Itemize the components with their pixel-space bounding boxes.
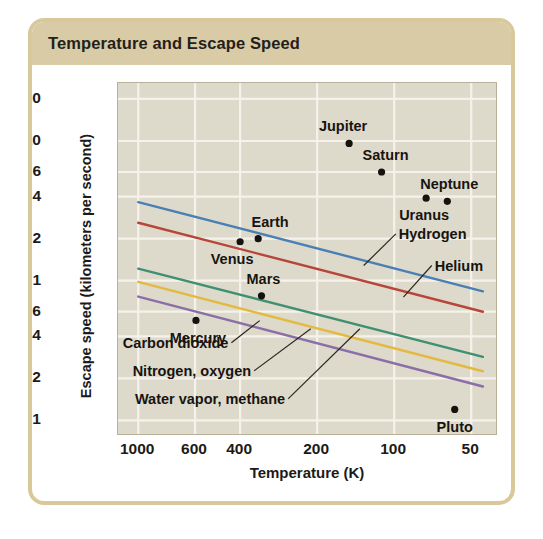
series-label-hydrogen: Hydrogen: [399, 226, 467, 242]
data-point-label-uranus: Uranus: [399, 207, 449, 223]
figure-card: Temperature and Escape Speed Escape spee…: [28, 18, 515, 505]
data-point-label-pluto: Pluto: [437, 419, 473, 435]
y-tick-label: 2: [28, 229, 41, 247]
y-tick-label: 10: [28, 131, 41, 149]
plot-area: JupiterSaturnNeptuneUranusEarthVenusMars…: [117, 82, 497, 435]
x-axis-title: Temperature (K): [117, 464, 497, 481]
series-label-water-vapor-methane: Water vapor, methane: [135, 391, 285, 407]
x-tick-label: 100: [358, 440, 428, 458]
y-tick-label: 0.6: [28, 302, 41, 320]
y-tick-label: 0.4: [28, 326, 41, 344]
x-tick-label: 50: [435, 440, 505, 458]
data-point-label-earth: Earth: [252, 214, 289, 230]
series-label-helium: Helium: [435, 258, 483, 274]
y-tick-label: 4: [28, 187, 41, 205]
title-band: Temperature and Escape Speed: [31, 21, 515, 65]
data-point-label-venus: Venus: [211, 251, 254, 267]
plot-region: Escape speed (kilometers per second) Tem…: [32, 66, 511, 505]
x-tick-label: 400: [204, 440, 274, 458]
y-axis-title: Escape speed (kilometers per second): [78, 116, 94, 416]
data-point-label-mars: Mars: [247, 271, 281, 287]
page-title: Temperature and Escape Speed: [48, 34, 300, 53]
series-label-nitrogen-oxygen: Nitrogen, oxygen: [133, 363, 251, 379]
data-point-label-jupiter: Jupiter: [319, 118, 367, 134]
y-tick-label: 1: [28, 271, 41, 289]
data-point-label-neptune: Neptune: [420, 176, 478, 192]
data-point-label-saturn: Saturn: [363, 147, 409, 163]
y-tick-label: 0.1: [28, 410, 41, 428]
series-label-carbon-dioxide: Carbon dioxide: [123, 335, 229, 351]
x-tick-label: 200: [281, 440, 351, 458]
y-tick-label: 6: [28, 162, 41, 180]
y-tick-label: 20: [28, 89, 41, 107]
y-tick-label: 0.2: [28, 368, 41, 386]
